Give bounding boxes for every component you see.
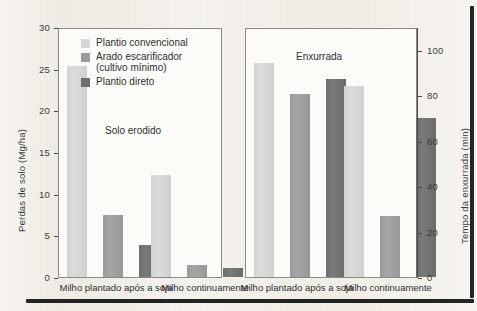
y-tick-label-enxurrada-80: 80 xyxy=(427,90,438,101)
bar-solo-erodido-g2-s2 xyxy=(187,265,207,278)
bar-solo-erodido-g2-s1 xyxy=(151,175,171,278)
legend-item-arado-escarificador: Arado escarificador (cultivo mínimo) xyxy=(81,51,188,74)
y-tick-enxurrada-80 xyxy=(418,96,422,97)
bars-enxurrada xyxy=(246,29,416,277)
group-label-right-2: Milho continuamente xyxy=(333,282,443,293)
y-tick-label-solo-erodido-20: 20 xyxy=(30,105,50,116)
bar-solo-erodido-g1-s1 xyxy=(67,66,87,277)
y-tick-enxurrada-40 xyxy=(418,187,422,188)
chart-enxurrada: Enxurrada 020406080100 Tempo da enxurrad… xyxy=(237,0,477,311)
legend-swatch-icon-arado-escarificador xyxy=(81,53,90,62)
y-tick-label-solo-erodido-25: 25 xyxy=(30,64,50,75)
y-tick-label-enxurrada-100: 100 xyxy=(427,45,443,56)
plot-area-enxurrada: Enxurrada xyxy=(245,28,417,278)
legend-label-plantio-convencional: Plantio convencional xyxy=(96,37,188,49)
legend: Plantio convencional Arado escarificador… xyxy=(81,37,188,89)
chart-solo-erodido: Perdas de solo (Mg/ha) 051015202530 Plan… xyxy=(0,0,240,311)
plot-title-enxurrada: Enxurrada xyxy=(296,51,342,62)
legend-label-line2: (cultivo mínimo) xyxy=(96,62,167,73)
y-tick-label-enxurrada-40: 40 xyxy=(427,181,438,192)
bar-enxurrada-g2-s1 xyxy=(344,86,364,277)
legend-label-line1: Arado escarificador xyxy=(96,51,182,62)
legend-item-plantio-convencional: Plantio convencional xyxy=(81,37,188,49)
y-tick-label-solo-erodido-15: 15 xyxy=(30,147,50,158)
y-tick-label-enxurrada-60: 60 xyxy=(427,136,438,147)
legend-swatch-icon-plantio-direto xyxy=(81,78,90,87)
legend-swatch-icon-plantio-convencional xyxy=(81,39,90,48)
legend-label-plantio-direto: Plantio direto xyxy=(96,76,154,88)
y-tick-enxurrada-60 xyxy=(418,142,422,143)
y-axis-title-right: Tempo da enxurrada (min) xyxy=(459,128,470,244)
bar-enxurrada-g2-s2 xyxy=(380,216,400,277)
y-tick-label-solo-erodido-30: 30 xyxy=(30,22,50,33)
y-axis-spine-enxurrada xyxy=(417,28,418,278)
y-tick-label-solo-erodido-5: 5 xyxy=(30,230,50,241)
bar-enxurrada-g1-s1 xyxy=(254,63,274,277)
y-tick-label-solo-erodido-0: 0 xyxy=(30,272,50,283)
y-axis-title-left: Perdas de solo (Mg/ha) xyxy=(16,129,27,232)
plot-title-solo-erodido: Solo erodido xyxy=(105,125,161,136)
figure-page: Perdas de solo (Mg/ha) 051015202530 Plan… xyxy=(0,0,477,311)
bar-enxurrada-g1-s3 xyxy=(326,79,346,277)
bar-solo-erodido-g1-s2 xyxy=(103,215,123,277)
y-tick-enxurrada-0 xyxy=(418,278,422,279)
y-tick-solo-erodido-0 xyxy=(54,278,58,279)
y-tick-label-solo-erodido-10: 10 xyxy=(30,189,50,200)
legend-item-plantio-direto: Plantio direto xyxy=(81,76,188,88)
y-tick-enxurrada-20 xyxy=(418,233,422,234)
plot-area-solo-erodido: Plantio convencional Arado escarificador… xyxy=(58,28,222,278)
y-tick-enxurrada-100 xyxy=(418,51,422,52)
bar-enxurrada-g1-s2 xyxy=(290,94,310,277)
legend-label-arado-escarificador: Arado escarificador (cultivo mínimo) xyxy=(96,51,182,74)
y-tick-label-enxurrada-20: 20 xyxy=(427,227,438,238)
